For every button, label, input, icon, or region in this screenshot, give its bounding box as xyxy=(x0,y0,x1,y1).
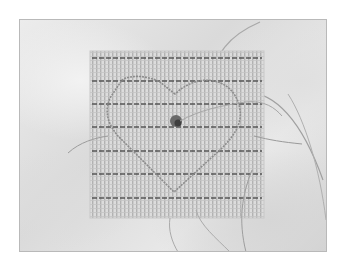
plastic-canvas xyxy=(90,51,264,218)
photo xyxy=(19,19,327,252)
needlework-illustration xyxy=(20,20,327,252)
loose-thread xyxy=(288,94,326,220)
loose-thread xyxy=(169,218,178,252)
